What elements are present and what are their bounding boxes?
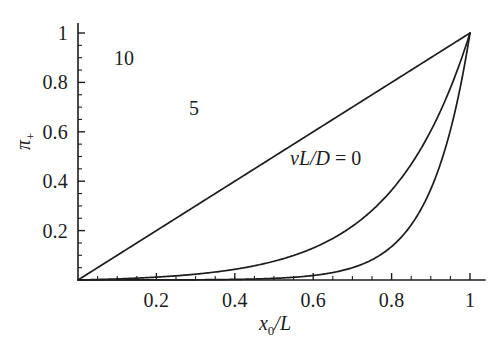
- chart-figure: 1 0.8 0.6 0.4 0.2 0.2 0.4 0.6 0.8 1 x0/L…: [0, 0, 499, 349]
- curve-annotation-0-numerator: vL: [290, 147, 310, 169]
- curve-annotation-0: vL/D = 0: [290, 147, 361, 170]
- y-tick-label-08: 0.8: [22, 71, 68, 94]
- plot-area: [0, 0, 499, 349]
- x-tick-label-04: 0.4: [222, 289, 248, 312]
- y-axis-title: π+: [12, 133, 39, 150]
- y-tick-label-02: 0.2: [22, 219, 68, 242]
- x-tick-label-06: 0.6: [300, 289, 326, 312]
- x-axis-title: x0/L: [259, 312, 291, 339]
- y-axis-title-symbol: π: [12, 140, 34, 150]
- chart-background: [0, 0, 499, 349]
- curve-annotation-0-equals: = 0: [330, 147, 361, 169]
- x-tick-label-08: 0.8: [379, 289, 405, 312]
- curve-annotation-0-denominator: /D: [310, 147, 330, 169]
- y-tick-label-04: 0.4: [22, 170, 68, 193]
- x-tick-label-02: 0.2: [144, 289, 170, 312]
- y-tick-label-1: 1: [22, 22, 68, 45]
- x-axis-title-var: x: [259, 312, 268, 334]
- curve-annotation-5: 5: [189, 97, 199, 120]
- curve-annotation-10: 10: [114, 47, 134, 70]
- x-axis-title-denominator: /L: [274, 312, 291, 334]
- y-axis-title-subscript: +: [23, 133, 38, 140]
- x-tick-label-1: 1: [465, 289, 475, 312]
